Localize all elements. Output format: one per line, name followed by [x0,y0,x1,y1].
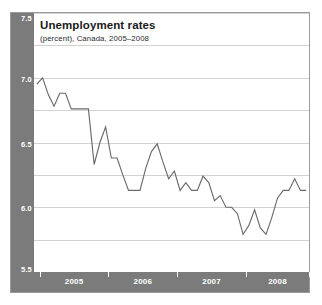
x-axis-tick-mark [309,272,310,277]
x-axis-tick-label: 2005 [65,277,84,286]
x-axis-tick-label: 2007 [202,277,221,286]
x-axis-tick-mark [40,272,41,277]
x-axis-tick-mark [177,272,178,277]
series-line-chart [34,13,309,272]
x-axis-tick-mark [246,272,247,277]
chart-title: Unemployment rates [40,18,240,32]
series-polyline [37,78,306,235]
y-axis-band: 7.57.06.56.05.5 [11,13,34,292]
x-axis-tick-label: 2006 [134,277,153,286]
y-axis-tick-label: 7.0 [21,74,32,83]
title-block: Unemployment rates (percent), Canada, 20… [40,18,240,44]
x-axis-band: 2005200620072008 [11,272,309,292]
y-axis-tick-label: 6.5 [21,139,32,148]
chart-figure: 7.57.06.56.05.5 2005200620072008 Unemplo… [0,0,322,305]
x-axis-tick-label: 2008 [268,277,287,286]
y-axis-tick-label: 6.0 [21,204,32,213]
x-axis-tick-mark [108,272,109,277]
chart-subtitle: (percent), Canada, 2005–2008 [40,33,240,44]
plot-area [34,13,309,272]
y-axis-tick-label: 7.5 [21,14,32,23]
